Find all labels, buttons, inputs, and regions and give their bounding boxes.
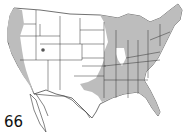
- us-range-map: 66: [0, 0, 194, 139]
- range-utah-spot: [41, 48, 45, 52]
- figure-number-label: 66: [4, 115, 23, 130]
- baja-california: [30, 94, 46, 132]
- map-svg: [0, 0, 194, 139]
